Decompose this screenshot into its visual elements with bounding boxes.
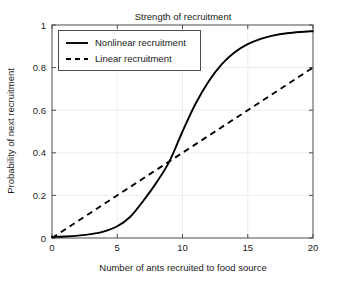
chart-canvas: Strength of recruitment 05101520 00.20.4… xyxy=(0,0,338,285)
x-axis-label: Number of ants recruited to food source xyxy=(99,262,266,273)
y-tick-label: 0.2 xyxy=(33,190,46,201)
x-tick-label: 15 xyxy=(242,242,253,253)
x-tick-label: 5 xyxy=(115,242,120,253)
x-tick-label: 20 xyxy=(308,242,319,253)
y-tick-label: 0.6 xyxy=(33,105,46,116)
legend-label-linear: Linear recruitment xyxy=(95,53,172,64)
figure-container: Strength of recruitment 05101520 00.20.4… xyxy=(0,0,338,285)
x-tick-label: 0 xyxy=(49,242,54,253)
y-tick-label: 0 xyxy=(41,233,46,244)
y-tick-label: 1 xyxy=(41,20,46,31)
x-tick-label: 10 xyxy=(177,242,188,253)
chart-legend[interactable]: Nonlinear recruitment Linear recruitment xyxy=(59,31,201,71)
y-axis-label: Probability of next recruitment xyxy=(5,68,16,194)
y-tick-label: 0.4 xyxy=(33,147,46,158)
chart-title: Strength of recruitment xyxy=(135,11,232,22)
y-tick-label: 0.8 xyxy=(33,62,46,73)
legend-label-nonlinear: Nonlinear recruitment xyxy=(95,37,186,48)
